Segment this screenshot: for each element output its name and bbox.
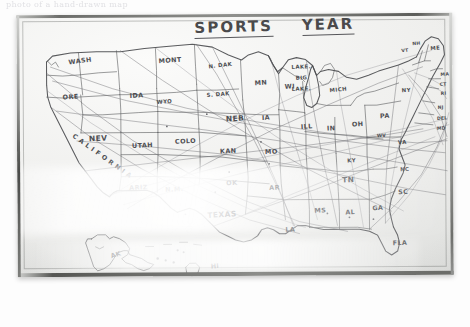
board-surface: SPORTS YEAR [16,13,454,278]
screenshot-root: photo of a hand-drawn map SPORTS YEAR [0,0,470,327]
cut-off-caption-text: photo of a hand-drawn map [6,0,186,11]
photo-vignette [16,13,454,278]
photographed-board: SPORTS YEAR [16,13,454,278]
board-edge-right [449,13,454,275]
